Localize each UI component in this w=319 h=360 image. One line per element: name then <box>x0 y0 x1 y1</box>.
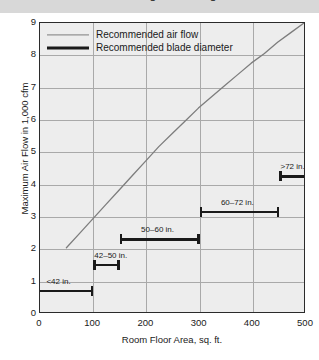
range-bar-cap-left <box>93 260 96 270</box>
top-banner-strip: Recommended Ceiling Fan Sizing <box>0 0 319 13</box>
y-tick-label: 9 <box>6 17 36 27</box>
range-bar-line <box>93 264 120 267</box>
legend-swatch-thick-line-icon <box>47 43 89 53</box>
range-bar-line <box>200 211 280 214</box>
y-tick-label: 0 <box>6 308 36 318</box>
x-tick-label: 200 <box>125 318 165 328</box>
x-tick-label: 300 <box>179 318 219 328</box>
range-bar-cap-right <box>91 286 94 296</box>
x-axis-title: Room Floor Area, sq. ft. <box>39 334 305 345</box>
range-bar-line <box>120 238 200 241</box>
range-bar-line <box>279 175 305 178</box>
x-tick-label: 400 <box>232 318 272 328</box>
chart-legend: Recommended air flow Recommended blade d… <box>44 26 236 56</box>
range-bar-cap-right <box>117 260 120 270</box>
range-bar-cap-right <box>197 234 200 244</box>
range-bar-label: 60–72 in. <box>221 198 254 207</box>
legend-label-blade-diameter: Recommended blade diameter <box>96 42 233 53</box>
x-axis-ticks: 0100200300400500 <box>39 318 305 332</box>
y-tick-label: 1 <box>6 276 36 286</box>
range-bar-cap-left <box>120 234 123 244</box>
air-flow-curve <box>40 23 304 312</box>
range-bar-label: 42–50 in. <box>94 251 127 260</box>
banner-clipped-title: Recommended Ceiling Fan Sizing <box>34 0 217 1</box>
y-axis-title: Maximum Air Flow in 1,000 cfm <box>19 49 30 249</box>
range-bar-label: 50–60 in. <box>141 225 174 234</box>
range-bar-label: <42 in. <box>46 277 70 286</box>
legend-item-air-flow: Recommended air flow <box>47 28 233 41</box>
chart-figure: 0123456789 Maximum Air Flow in 1,000 cfm… <box>0 13 319 360</box>
legend-item-blade-diameter: Recommended blade diameter <box>47 41 233 54</box>
range-bar-cap-right <box>277 207 280 217</box>
range-bar-cap-left <box>200 207 203 217</box>
legend-label-air-flow: Recommended air flow <box>96 29 198 40</box>
plot-area: <42 in.42–50 in.50–60 in.60–72 in.>72 in… <box>39 22 305 313</box>
x-tick-label: 0 <box>19 318 59 328</box>
x-tick-label: 100 <box>72 318 112 328</box>
range-bar-line <box>40 290 93 293</box>
range-bar-label: >72 in. <box>281 162 305 171</box>
x-tick-label: 500 <box>285 318 319 328</box>
legend-swatch-thin-line-icon <box>47 30 89 40</box>
range-bar-cap-left <box>279 171 282 181</box>
